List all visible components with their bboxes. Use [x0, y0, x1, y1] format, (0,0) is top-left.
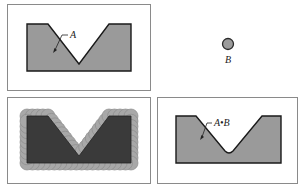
label-result: A•B: [213, 117, 230, 128]
structuring-element-b: [223, 39, 234, 50]
panel-structuring-element: B: [223, 39, 234, 66]
panel-set-a: A: [8, 5, 151, 91]
dilation-diagram: A B A•B: [0, 0, 302, 191]
label-b: B: [225, 54, 231, 65]
panel-dilation-result: A•B: [158, 98, 298, 184]
panel-dilation-process: [8, 98, 151, 184]
label-a: A: [69, 29, 77, 40]
